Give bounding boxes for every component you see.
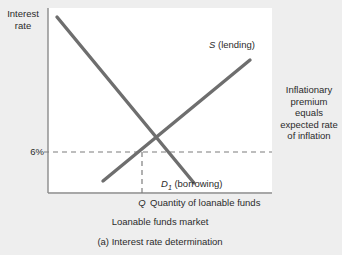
demand-curve-label: D1 (borrowing) [161, 178, 222, 191]
supply-curve-description: (lending) [215, 39, 255, 50]
figure-interest-rate-determination: Interest rate 6% Q Quantity of loanable … [0, 0, 342, 255]
demand-curve [57, 17, 194, 183]
figure-caption: (a) Interest rate determination [48, 236, 272, 247]
x-axis-title: Quantity of loanable funds [150, 197, 260, 208]
y-axis-title: Interest rate [2, 8, 44, 31]
supply-curve-label: S (lending) [209, 39, 255, 50]
demand-curve-description: (borrowing) [172, 178, 223, 189]
inflationary-premium-annotation: Inflationary premium equals expected rat… [278, 84, 340, 142]
demand-curve-symbol: D [161, 178, 168, 189]
y-axis-tick-label-6-percent: 6% [22, 146, 44, 157]
market-label: Loanable funds market [48, 216, 272, 227]
